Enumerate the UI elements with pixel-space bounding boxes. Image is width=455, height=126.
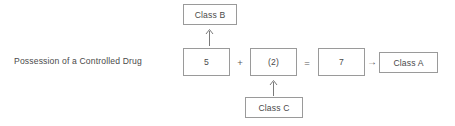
term-2-box: (2)	[250, 48, 297, 76]
offence-label: Possession of a Controlled Drug	[14, 56, 142, 67]
total-value: 7	[339, 57, 344, 67]
total-box: 7	[318, 48, 365, 76]
right-arrow-icon: →	[365, 57, 379, 67]
plus-operator: +	[233, 58, 247, 68]
class-b-box: Class B	[183, 4, 237, 25]
class-c-label: Class C	[258, 103, 289, 113]
arrow-up-to-class-b-icon	[203, 27, 216, 46]
equals-operator: =	[300, 58, 314, 68]
class-a-box: Class A	[379, 52, 438, 73]
term-1-value: 5	[204, 57, 209, 67]
arrow-up-to-term-2-icon	[267, 78, 280, 96]
class-a-label: Class A	[393, 58, 423, 68]
offence-classification-diagram: Possession of a Controlled Drug Class B …	[0, 0, 455, 126]
class-b-label: Class B	[195, 10, 226, 20]
class-c-box: Class C	[245, 97, 303, 118]
term-1-box: 5	[183, 48, 230, 76]
term-2-value: (2)	[268, 57, 279, 67]
